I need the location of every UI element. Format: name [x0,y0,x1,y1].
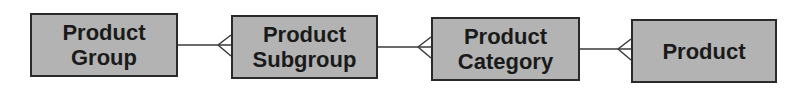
crows-foot-icon [618,39,631,49]
crows-foot-icon [418,37,431,47]
entity-label-line2: Subgroup [253,47,357,72]
entity-label-line1: Product [464,24,547,49]
entity-label-line1: Product [662,39,745,64]
relationship-subgroup-category [377,37,431,58]
relationship-group-subgroup [177,35,231,56]
entity-product-subgroup: Product Subgroup [231,15,378,79]
entity-label-line2: Group [71,45,137,70]
entity-label-line2: Category [458,49,553,74]
relationship-category-product [579,39,631,60]
entity-label-line1: Product [62,20,145,45]
entity-product-group: Product Group [30,13,178,77]
crows-foot-icon [218,35,231,45]
entity-product-category: Product Category [431,17,580,81]
entity-product: Product [631,19,777,83]
entity-label-line1: Product [263,22,346,47]
